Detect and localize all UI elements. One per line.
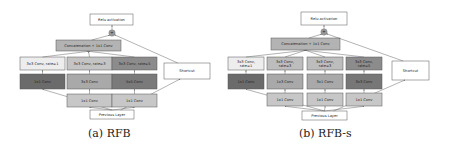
relu-activation-box: Relu activation (301, 12, 347, 25)
rfb-s-diagram: Relu activation+Concatenation + 1x1 Conv… (228, 12, 429, 120)
concat-conv-box-label: Concatenation + 1x1 Conv (281, 42, 330, 46)
bottom-conv-box-label: 1x1 Conv (277, 98, 295, 102)
add-node: + (321, 29, 327, 35)
conv-box-label: 1x3 Conv (277, 80, 295, 84)
dilated-conv-box-label: rate=5 (358, 64, 371, 68)
dilated-conv-box: 3x3 Conv,rate=3 (267, 57, 303, 70)
bottom-conv-box: 1x1 Conv (67, 94, 112, 107)
branch-2: 3x3 Conv, rate=33x3 Conv1x1 Conv (67, 51, 112, 110)
previous-layer-box-label: Previous Layer (311, 114, 338, 118)
rfb-diagram: Relu activation+Concatenation + 1x1 Conv… (20, 14, 210, 119)
add-symbol: + (322, 29, 325, 34)
arrow-to-concat (246, 50, 306, 57)
dilated-conv-box: 3x3 Conv, rate=3 (67, 57, 112, 70)
shortcut-box-label: Shortcut (403, 69, 419, 73)
relu-activation-box-label: Relu activation (311, 17, 338, 21)
dilated-conv-box-label: 3x3 Conv, rate=1 (27, 62, 59, 66)
conv-box-label: 3x1 Conv (317, 80, 335, 84)
bottom-conv-box-label: 1x1 Conv (126, 99, 144, 103)
bottom-conv-box: 1x1 Conv (307, 93, 343, 106)
branch-3: 3x3 Conv,rate=33x1 Conv1x1 Conv (306, 50, 344, 111)
bottom-conv-box-label: 1x1 Conv (356, 98, 374, 102)
conv-box: 1x1 Conv (20, 74, 65, 89)
caption-rfb-s: (b) RFB-s (299, 127, 352, 140)
conv-box: 1x1 Conv (228, 74, 264, 89)
shortcut-box-label: Shortcut (179, 69, 195, 73)
add-node: + (109, 30, 115, 36)
arrow-to-concat (43, 51, 89, 57)
add-symbol: + (110, 30, 113, 35)
conv-box-label: 3x3 Conv (356, 80, 374, 84)
concat-conv-box: Concatenation + 1x1 Conv (56, 40, 121, 51)
dilated-conv-box: 3x3 Conv,rate=5 (346, 57, 382, 70)
dilated-conv-box: 3x3 Conv,rate=3 (307, 57, 343, 70)
arrow-prev-to-bottom (285, 106, 325, 111)
arrow-to-concat (306, 50, 365, 57)
conv-box: 5x5 Conv (112, 74, 157, 89)
arrow-concat-to-add (309, 34, 322, 38)
dilated-conv-box: 3x3 Conv, rate=1 (20, 57, 65, 70)
previous-layer-box-label: Previous Layer (99, 113, 126, 117)
dilated-conv-box: 3x3 Conv, rate=5 (112, 57, 157, 70)
arrow-prev-to-bottom (325, 106, 365, 111)
previous-layer-box: Previous Layer (90, 110, 134, 119)
bottom-conv-box: 1x1 Conv (267, 93, 303, 106)
shortcut-box: Shortcut (164, 63, 210, 79)
arrow-prev-to-bottom (325, 106, 326, 111)
conv-box-label: 5x5 Conv (126, 80, 144, 84)
relu-activation-box-label: Relu activation (98, 18, 125, 22)
concat-conv-box: Concatenation + 1x1 Conv (271, 38, 340, 50)
relu-activation-box: Relu activation (90, 14, 133, 25)
dilated-conv-box-label: 3x3 Conv, rate=5 (119, 62, 151, 66)
caption-rfb: (a) RFB (88, 127, 131, 140)
bottom-conv-box: 1x1 Conv (112, 94, 157, 107)
dilated-conv-box-label: rate=3 (319, 64, 332, 68)
arrow-to-concat (89, 51, 135, 57)
rfb-figure: Relu activation+Concatenation + 1x1 Conv… (0, 0, 450, 151)
dilated-conv-box-label: rate=3 (279, 64, 292, 68)
conv-box-label: 1x1 Conv (34, 80, 52, 84)
bottom-conv-box-label: 1x1 Conv (317, 98, 335, 102)
conv-box: 3x1 Conv (307, 74, 343, 89)
arrow-concat-to-add (92, 35, 110, 40)
dilated-conv-box-label: 3x3 Conv, rate=3 (74, 62, 106, 66)
arrow-to-concat (89, 51, 90, 57)
dilated-conv-box: 3x3 Conv,rate=1 (228, 57, 264, 70)
shortcut-box: Shortcut (392, 61, 429, 80)
dilated-conv-box-label: rate=1 (240, 64, 253, 68)
concat-conv-box-label: Concatenation + 1x1 Conv (64, 44, 113, 48)
conv-box: 3x3 Conv (67, 74, 112, 89)
arrow-prev-to-bottom (112, 107, 135, 110)
arrow-prev-to-bottom (90, 107, 113, 110)
conv-box-label: 3x3 Conv (81, 80, 99, 84)
bottom-conv-box: 1x1 Conv (346, 93, 382, 106)
bottom-conv-box-label: 1x1 Conv (81, 99, 99, 103)
previous-layer-box: Previous Layer (302, 111, 347, 120)
conv-box: 3x3 Conv (346, 74, 382, 89)
conv-box: 1x3 Conv (267, 74, 303, 89)
conv-box-label: 1x1 Conv (238, 80, 256, 84)
